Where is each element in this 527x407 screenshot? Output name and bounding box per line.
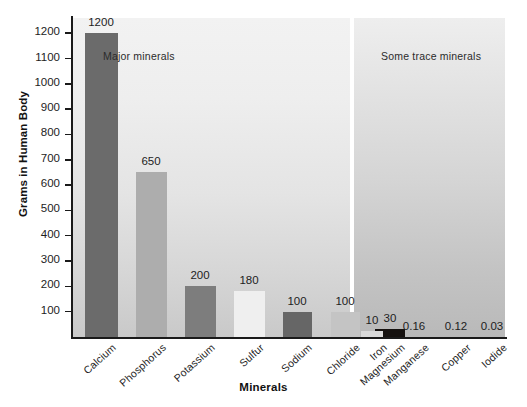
y-axis-tick bbox=[65, 286, 72, 288]
y-axis-tick bbox=[65, 83, 72, 85]
x-axis-label-sodium: Sodium bbox=[279, 341, 314, 375]
section-caption-trace-minerals: Some trace minerals bbox=[381, 50, 481, 62]
y-axis-tick bbox=[65, 134, 72, 136]
plot-area bbox=[72, 18, 505, 337]
x-axis-label-copper: Copper bbox=[439, 341, 474, 374]
bar-phosphorus bbox=[136, 172, 167, 337]
y-axis-line bbox=[71, 16, 73, 339]
section-caption-major-minerals: Major minerals bbox=[103, 50, 175, 62]
bar-sodium bbox=[283, 312, 312, 337]
y-axis-tick bbox=[65, 210, 72, 212]
y-axis-title: Grams in Human Body bbox=[17, 59, 29, 249]
y-axis-tick bbox=[65, 58, 72, 60]
bar-chart: Major minerals Some trace minerals 10020… bbox=[0, 0, 527, 407]
bar-value-calcium: 1200 bbox=[71, 16, 131, 28]
panel-trace-minerals bbox=[354, 18, 505, 337]
bar-value-sulfur: 180 bbox=[219, 274, 279, 286]
y-axis-tick bbox=[65, 184, 72, 186]
y-axis-tick bbox=[65, 108, 72, 110]
x-axis-label-chloride: Chloride bbox=[324, 341, 362, 377]
x-axis-title: Minerals bbox=[0, 381, 527, 393]
bar-sulfur bbox=[234, 291, 265, 337]
bar-value-phosphorus: 650 bbox=[121, 155, 181, 167]
y-axis-tick-label: 200 bbox=[18, 278, 60, 290]
x-axis-label-sulfur: Sulfur bbox=[237, 341, 266, 369]
bar-value-iodide: 0.03 bbox=[462, 320, 522, 332]
bar-potassium bbox=[185, 286, 216, 337]
x-axis-label-potassium: Potassium bbox=[171, 341, 217, 384]
y-axis-tick-label: 300 bbox=[18, 253, 60, 265]
y-axis-tick bbox=[65, 311, 72, 313]
x-axis-line bbox=[71, 337, 507, 339]
y-axis-tick-label: 1200 bbox=[18, 25, 60, 37]
x-axis-label-iodide: Iodide bbox=[479, 341, 509, 370]
y-axis-tick bbox=[65, 159, 72, 161]
y-axis-tick bbox=[65, 260, 72, 262]
y-axis-tick bbox=[65, 32, 72, 34]
x-axis-label-calcium: Calcium bbox=[81, 341, 118, 376]
y-axis-tick-label: 100 bbox=[18, 304, 60, 316]
bar-calcium bbox=[85, 33, 118, 337]
y-axis-tick bbox=[65, 235, 72, 237]
bar-value-chloride: 100 bbox=[315, 295, 375, 307]
